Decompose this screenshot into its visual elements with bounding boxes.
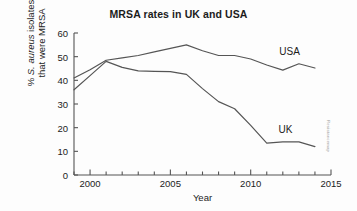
- chart-figure: MRSA rates in UK and USA % S. aureus iso…: [0, 0, 357, 211]
- chart-plot-area: [0, 0, 357, 211]
- x-tick-marks: [74, 170, 331, 176]
- series-label-uk: UK: [278, 124, 292, 135]
- x-axis-title: Year: [74, 192, 331, 203]
- y-tick-marks: [74, 33, 78, 175]
- series-label-usa: USA: [279, 46, 300, 57]
- watermark-text: Resistancemap: [326, 120, 331, 152]
